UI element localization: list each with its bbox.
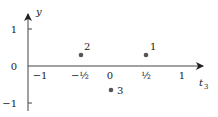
x-tick-label: ½ bbox=[141, 70, 151, 81]
scatter-plot: 1 0 −1 −1 −½ 0 ½ 1 y t 3 1 2 3 bbox=[0, 0, 218, 117]
data-point-1 bbox=[144, 53, 149, 58]
x-tick-label: 1 bbox=[179, 70, 185, 81]
point-label: 1 bbox=[150, 41, 156, 52]
y-tick-label: 0 bbox=[11, 61, 17, 72]
point-label: 2 bbox=[84, 41, 90, 52]
x-tick-label: −1 bbox=[33, 70, 48, 81]
x-axis-label-subscript: 3 bbox=[204, 83, 208, 91]
x-tick-label: 0 bbox=[107, 70, 113, 81]
y-axis-label: y bbox=[35, 6, 42, 17]
y-tick-label: −1 bbox=[2, 98, 17, 109]
x-tick-label: −½ bbox=[71, 70, 89, 81]
data-point-2 bbox=[79, 53, 84, 58]
point-label: 3 bbox=[117, 85, 123, 96]
y-tick-label: 1 bbox=[11, 24, 17, 35]
data-point-3 bbox=[109, 88, 114, 93]
